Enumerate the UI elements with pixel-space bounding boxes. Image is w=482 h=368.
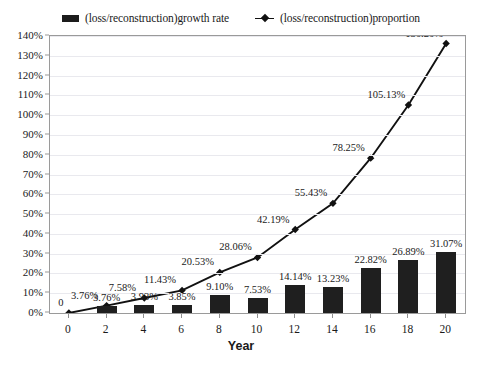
bar — [97, 306, 117, 313]
x-axis-tick-label: 6 — [178, 323, 184, 335]
x-axis-tick-label: 2 — [103, 323, 109, 335]
x-axis-tick-label: 10 — [251, 323, 263, 335]
x-axis-title: Year — [0, 339, 482, 353]
x-axis-tick-label: 12 — [288, 323, 300, 335]
bar-value-label: 3.85% — [168, 291, 195, 302]
legend-label-proportion: (loss/reconstruction)proportion — [280, 12, 420, 24]
line-value-label: 3.76% — [71, 289, 98, 300]
x-axis-tick-mark — [143, 314, 144, 318]
y-axis-tick-label: 0% — [28, 306, 43, 318]
x-axis-tick-mark — [445, 314, 446, 318]
x-axis-tick-mark — [219, 314, 220, 318]
y-axis-tick-label: 110% — [18, 88, 43, 100]
gridline — [50, 36, 465, 37]
x-axis-tick-label: 8 — [216, 323, 222, 335]
bar — [134, 305, 154, 313]
line-value-label: 28.06% — [219, 241, 251, 252]
bar — [210, 295, 230, 313]
line-marker-icon — [255, 14, 274, 23]
bar-swatch-icon — [62, 15, 79, 22]
line-value-label: 0 — [58, 297, 63, 308]
x-axis-tick-mark — [181, 314, 182, 318]
bar-value-label: 22.82% — [354, 254, 386, 265]
line-value-label: 20.53% — [182, 256, 214, 267]
gridline — [50, 135, 465, 136]
line-value-label: 136.20% — [405, 35, 443, 38]
x-axis-tick-mark — [68, 314, 69, 318]
x-axis-tick-label: 16 — [364, 323, 376, 335]
legend-label-growth-rate: (loss/reconstruction)growth rate — [85, 12, 229, 24]
y-axis-tick-label: 90% — [23, 128, 43, 140]
y-axis-tick-label: 70% — [23, 168, 43, 180]
line-value-label: 55.43% — [295, 187, 327, 198]
legend-item-growth-rate: (loss/reconstruction)growth rate — [62, 12, 229, 24]
bar — [361, 268, 381, 313]
gridline — [50, 115, 465, 116]
chart-container: (loss/reconstruction)growth rate (loss/r… — [0, 0, 482, 368]
bar — [323, 287, 343, 313]
line-data-point-marker — [216, 269, 223, 276]
gridline — [50, 175, 465, 176]
x-axis: 02468101214161820 — [49, 314, 466, 340]
x-axis-tick-label: 20 — [439, 323, 451, 335]
x-axis-tick-mark — [294, 314, 295, 318]
x-axis-tick-label: 0 — [65, 323, 71, 335]
bar — [248, 298, 268, 313]
bar-value-label: 9.10% — [206, 281, 233, 292]
y-axis-tick-label: 100% — [17, 108, 43, 120]
bar-value-label: 31.07% — [430, 238, 462, 249]
bar-value-label: 13.23% — [317, 273, 349, 284]
line-value-label: 42.19% — [257, 213, 289, 224]
x-axis-tick-label: 4 — [140, 323, 146, 335]
x-axis-tick-label: 18 — [402, 323, 414, 335]
bar-value-label: 7.53% — [244, 284, 271, 295]
gridline — [50, 56, 465, 57]
chart-legend: (loss/reconstruction)growth rate (loss/r… — [0, 12, 482, 24]
bar-value-label: 3.93% — [131, 291, 158, 302]
gridline — [50, 155, 465, 156]
gridline — [50, 76, 465, 77]
x-axis-tick-mark — [106, 314, 107, 318]
y-axis-tick-label: 140% — [17, 29, 43, 41]
x-axis-tick-mark — [407, 314, 408, 318]
y-axis-tick-label: 30% — [23, 247, 43, 259]
bar — [172, 305, 192, 313]
y-axis-tick-label: 10% — [23, 286, 43, 298]
y-axis-tick-label: 120% — [17, 69, 43, 81]
y-axis-tick-label: 20% — [23, 266, 43, 278]
y-axis: 0%10%20%30%40%50%60%70%80%90%100%110%120… — [0, 35, 49, 314]
plot-area: 3.76%3.93%3.85%9.10%7.53%14.14%13.23%22.… — [49, 35, 466, 314]
x-axis-tick-mark — [332, 314, 333, 318]
y-axis-tick-label: 50% — [23, 207, 43, 219]
x-axis-tick-mark — [370, 314, 371, 318]
y-axis-tick-label: 130% — [17, 49, 43, 61]
gridline — [50, 194, 465, 195]
bar-value-label: 14.14% — [279, 271, 311, 282]
line-value-label: 78.25% — [332, 142, 364, 153]
bar — [285, 285, 305, 313]
gridline — [50, 234, 465, 235]
bar — [398, 260, 418, 313]
y-axis-tick-label: 60% — [23, 187, 43, 199]
x-axis-tick-label: 14 — [326, 323, 338, 335]
x-axis-tick-mark — [257, 314, 258, 318]
bar-value-label: 26.89% — [392, 246, 424, 257]
bar — [436, 252, 456, 313]
line-value-label: 105.13% — [368, 88, 406, 99]
y-axis-tick-label: 40% — [23, 227, 43, 239]
y-axis-tick-label: 80% — [23, 148, 43, 160]
line-value-label: 7.58% — [109, 282, 136, 293]
line-value-label: 11.43% — [144, 274, 176, 285]
legend-item-proportion: (loss/reconstruction)proportion — [255, 12, 420, 24]
